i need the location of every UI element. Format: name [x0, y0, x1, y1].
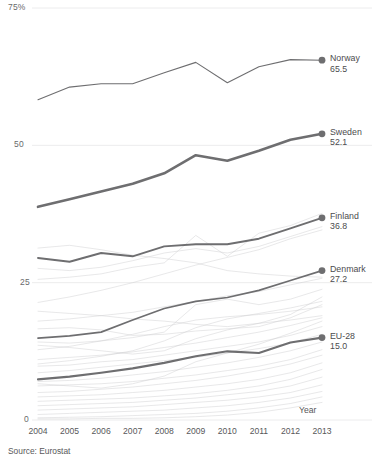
- background-series-group: [38, 213, 322, 418]
- series-line-other-6: [38, 305, 322, 336]
- y-tick-75: 75%: [8, 2, 26, 12]
- series-line-other-25: [38, 227, 322, 271]
- endpoint-marker-sweden: [319, 130, 326, 137]
- x-tick-2012: 2012: [281, 426, 300, 436]
- x-tick-2009: 2009: [186, 426, 205, 436]
- series-line-other-22: [38, 311, 322, 326]
- x-tick-2008: 2008: [155, 426, 174, 436]
- series-label-value: 36.8: [330, 221, 359, 232]
- y-tick-25: 25: [20, 277, 30, 287]
- series-label-name: EU-28: [330, 331, 355, 341]
- x-tick-2004: 2004: [28, 426, 47, 436]
- series-line-other-12: [38, 350, 322, 386]
- y-tick-0: 0: [24, 414, 29, 424]
- endpoint-marker-norway: [319, 57, 326, 64]
- series-label-name: Finland: [330, 211, 359, 221]
- x-tick-2005: 2005: [60, 426, 79, 436]
- x-tick-2013: 2013: [312, 426, 331, 436]
- highlight-series-group: [38, 60, 322, 380]
- series-label-name: Sweden: [330, 127, 362, 137]
- series-label-name: Denmark: [330, 264, 366, 274]
- x-tick-2011: 2011: [250, 426, 268, 436]
- series-label-value: 52.1: [330, 137, 362, 148]
- series-line-other-3: [38, 230, 322, 303]
- series-line-norway: [38, 60, 322, 100]
- series-label-finland: Finland36.8: [330, 211, 359, 232]
- x-axis-title: Year: [299, 405, 316, 415]
- series-line-other-10: [38, 334, 322, 372]
- series-label-name: Norway: [330, 53, 360, 63]
- source-note: Source: Eurostat: [8, 446, 70, 456]
- endpoint-marker-denmark: [319, 267, 326, 274]
- series-line-other-1: [38, 245, 322, 277]
- series-label-value: 65.5: [330, 64, 360, 75]
- y-tick-50: 50: [14, 139, 24, 149]
- x-tick-2010: 2010: [218, 426, 237, 436]
- x-tick-2007: 2007: [123, 426, 142, 436]
- endpoint-marker-eu-28: [319, 334, 326, 341]
- chart-container: 75%50250 2004200520062007200820092010201…: [0, 0, 389, 465]
- x-tick-2006: 2006: [92, 426, 111, 436]
- series-line-eu-28: [38, 338, 322, 380]
- series-line-other-24: [38, 321, 322, 388]
- series-label-sweden: Sweden52.1: [330, 127, 362, 148]
- series-label-denmark: Denmark27.2: [330, 264, 366, 285]
- series-label-eu-28: EU-2815.0: [330, 331, 355, 352]
- series-label-value: 27.2: [330, 274, 366, 285]
- series-label-value: 15.0: [330, 341, 355, 352]
- series-line-sweden: [38, 134, 322, 207]
- endpoint-marker-finland: [319, 214, 326, 221]
- series-label-norway: Norway65.5: [330, 53, 360, 74]
